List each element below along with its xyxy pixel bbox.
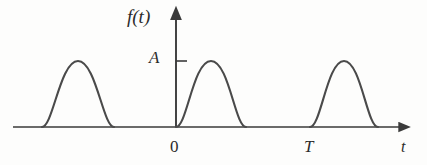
waveform-arch-2 (176, 61, 246, 127)
waveform-arch-1 (42, 61, 114, 127)
y-axis-function-label: f(t) (127, 7, 150, 26)
waveform-figure: f(t) A 0 T t (0, 0, 427, 165)
origin-tick-label: 0 (170, 138, 179, 155)
waveform-arch-3 (310, 61, 378, 127)
period-tick-label: T (304, 138, 313, 155)
plot-canvas (0, 0, 427, 165)
x-axis-variable-label: t (401, 139, 405, 155)
amplitude-tick-label: A (149, 49, 159, 66)
